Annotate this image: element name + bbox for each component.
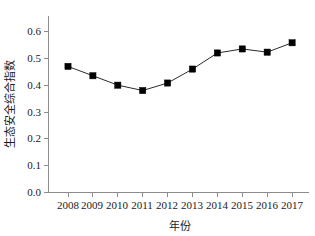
x-tick-label: 2011 (131, 199, 153, 211)
x-tick-label: 2015 (231, 199, 254, 211)
y-tick-label: 0.2 (27, 132, 41, 144)
y-tick-label: 0.3 (27, 106, 41, 118)
data-point-marker (140, 87, 146, 93)
y-tick-label: 0.1 (27, 159, 41, 171)
data-point-marker (65, 63, 71, 69)
data-point-marker (289, 40, 295, 46)
data-point-marker (115, 82, 121, 88)
data-point-marker (214, 50, 220, 56)
data-point-marker (90, 73, 96, 79)
x-tick-label: 2012 (156, 199, 178, 211)
x-tick-label: 2017 (281, 199, 304, 211)
chart-figure: 0.0 0.1 0.2 0.3 0.4 0.5 0.6 2008 2009 20… (0, 0, 315, 236)
data-point-marker (165, 80, 171, 86)
x-tick-label: 2013 (181, 199, 204, 211)
x-axis-tick-labels: 2008 2009 2010 2011 2012 2013 2014 2015 … (57, 199, 304, 211)
y-axis-title: 生态安全综合指数 (3, 60, 16, 148)
x-tick-label: 2009 (81, 199, 104, 211)
data-point-marker (239, 46, 245, 52)
data-point-marker (189, 66, 195, 72)
x-tick-label: 2008 (57, 199, 80, 211)
x-tick-label: 2014 (206, 199, 229, 211)
y-tick-label: 0.6 (27, 25, 41, 37)
y-tick-label: 0.4 (27, 79, 41, 91)
x-tick-label: 2016 (256, 199, 279, 211)
y-tick-label: 0.5 (27, 52, 41, 64)
line-chart: 0.0 0.1 0.2 0.3 0.4 0.5 0.6 2008 2009 20… (0, 0, 315, 236)
x-axis-title: 年份 (169, 219, 191, 232)
x-tick-label: 2010 (106, 199, 129, 211)
data-point-marker (264, 49, 270, 55)
y-tick-label: 0.0 (27, 186, 41, 198)
